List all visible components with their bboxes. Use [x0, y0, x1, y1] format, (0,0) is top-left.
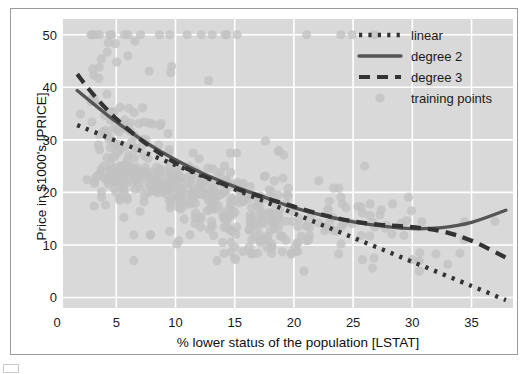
y-tick-label: 0 — [17, 291, 57, 304]
x-tick-label: 30 — [392, 316, 432, 329]
x-tick-label: 5 — [96, 316, 136, 329]
chart-frame: 01020304050 05101520253035 lineardegree … — [10, 8, 518, 355]
x-tick-label: 10 — [156, 316, 196, 329]
x-axis-label: % lower status of the population [LSTAT] — [73, 335, 523, 350]
legend-label-linear: linear — [411, 29, 443, 42]
legend-label-training-points: training points — [411, 92, 492, 105]
caption-marker — [3, 364, 19, 373]
x-tick-label: 15 — [215, 316, 255, 329]
figure-container: 01020304050 05101520253035 lineardegree … — [0, 0, 528, 374]
legend-label-degree-2: degree 2 — [411, 50, 462, 63]
x-tick-label: 0 — [37, 316, 77, 329]
y-axis-label: Price in $1000's [PRICE] — [34, 57, 49, 277]
y-tick-label: 50 — [17, 29, 57, 42]
x-tick-label: 35 — [452, 316, 492, 329]
x-tick-label: 20 — [274, 316, 314, 329]
legend-label-degree-3: degree 3 — [411, 71, 462, 84]
x-tick-label: 25 — [333, 316, 373, 329]
